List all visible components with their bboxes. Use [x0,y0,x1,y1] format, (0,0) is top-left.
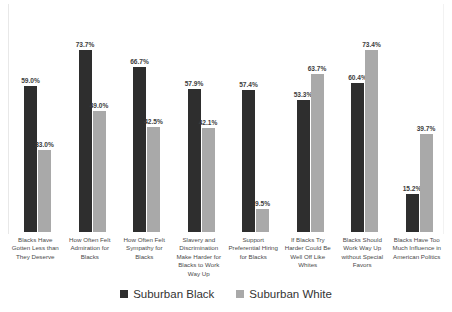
bar-value-label: 39.7% [417,125,436,133]
bar-rect [188,89,201,232]
bar-value-label: 9.5% [255,200,270,208]
bar-dark: 59.0% [24,4,37,234]
category-label: Blacks Have Too Much Influence in Americ… [390,236,444,261]
category-label: How Often Felt Admiration for Blacks [63,236,117,261]
bar-group: 57.9%42.1% [173,4,228,234]
category-label: Support Preferential Hiring for Blacks [226,236,280,261]
bar-group: 15.2%39.7% [391,4,446,234]
bar-rect [351,83,364,232]
bar-group: 66.7%42.5% [118,4,173,234]
legend-label: Suburban Black [133,288,214,300]
bar-rect [420,134,433,232]
bar-rect [242,90,255,232]
bar-dark: 15.2% [406,4,419,234]
legend-swatch-icon [236,290,244,298]
category-label: Blacks Have Gotten Less than They Deserv… [8,236,62,261]
bar-group: 59.0%33.0% [9,4,64,234]
bar-rect [365,50,378,232]
bar-group: 57.4%9.5% [227,4,282,234]
bar-value-label: 63.7% [308,65,327,73]
bar-light: 39.7% [420,4,433,234]
legend-item[interactable]: Suburban Black [120,288,214,300]
category-label: Blacks Should Work Way Up without Specia… [335,236,389,270]
bar-rect [256,209,269,233]
chart-legend: Suburban BlackSuburban White [0,288,452,300]
legend-swatch-icon [120,290,128,298]
bar-rect [133,67,146,232]
bar-light: 42.1% [202,4,215,234]
bar-dark: 53.3% [297,4,310,234]
category-label: How Often Felt Sympathy for Blacks [117,236,171,261]
plot-area: 59.0%33.0%73.7%49.0%66.7%42.5%57.9%42.1%… [8,4,444,234]
bar-value-label: 42.5% [144,118,163,126]
bar-rect [202,128,215,232]
bar-light: 9.5% [256,4,269,234]
bar-value-label: 73.4% [362,41,381,49]
bar-rect [79,50,92,232]
bar-value-label: 49.0% [90,102,109,110]
bar-rect [93,111,106,232]
bar-light: 49.0% [93,4,106,234]
bar-dark: 57.4% [242,4,255,234]
bar-light: 63.7% [311,4,324,234]
bar-dark: 73.7% [79,4,92,234]
bar-rect [24,86,37,232]
bar-rect [406,194,419,232]
bar-light: 73.4% [365,4,378,234]
bar-group: 53.3%63.7% [282,4,337,234]
bar-light: 42.5% [147,4,160,234]
bar-value-label: 33.0% [35,141,54,149]
bar-group: 73.7%49.0% [64,4,119,234]
bar-value-label: 42.1% [199,119,218,127]
bar-light: 33.0% [38,4,51,234]
bar-rect [38,150,51,232]
category-label: Slavery and Discrimination Make Harder f… [172,236,226,278]
bar-chart: 59.0%33.0%73.7%49.0%66.7%42.5%57.9%42.1%… [0,0,452,312]
bar-rect [311,74,324,232]
bar-group: 60.4%73.4% [336,4,391,234]
bar-dark: 60.4% [351,4,364,234]
legend-item[interactable]: Suburban White [236,288,331,300]
bar-rect [297,100,310,232]
bar-rect [147,127,160,232]
legend-label: Suburban White [249,288,331,300]
category-axis: Blacks Have Gotten Less than They Deserv… [8,236,444,288]
category-label: If Blacks Try Harder Could Be Well Off L… [281,236,335,270]
